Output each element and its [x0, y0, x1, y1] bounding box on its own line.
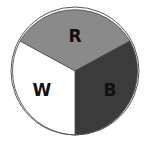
spinner-diagram: R B W [0, 0, 149, 145]
label-w: W [33, 80, 52, 100]
label-b: B [104, 80, 117, 100]
label-r: R [68, 26, 81, 46]
